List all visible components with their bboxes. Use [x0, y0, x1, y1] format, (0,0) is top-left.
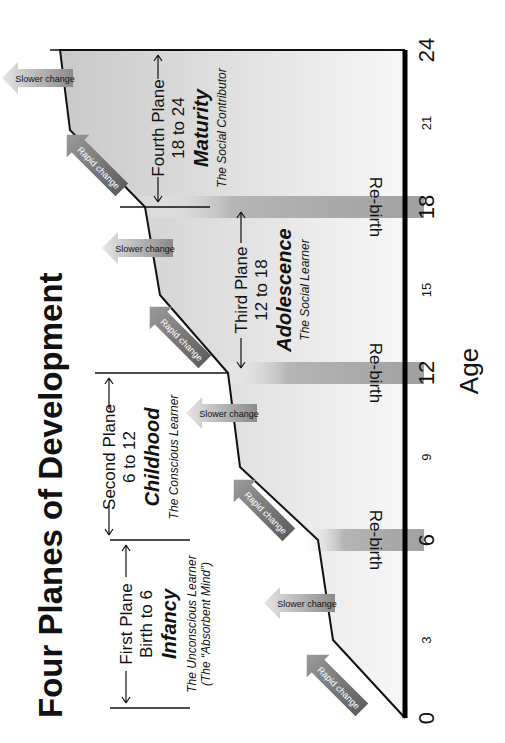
- plane-first: First Plane Birth to 6 Infancy The Uncon…: [117, 545, 213, 703]
- svg-text:Childhood: Childhood: [141, 407, 163, 507]
- tick-21: 21: [419, 116, 434, 130]
- svg-text:Rapid change: Rapid change: [315, 665, 361, 711]
- svg-text:Adolescence: Adolescence: [273, 228, 295, 352]
- svg-text:Slower change: Slower change: [115, 244, 175, 254]
- svg-text:First Plane: First Plane: [117, 583, 136, 664]
- svg-text:(The “Absorbent Mind”): (The “Absorbent Mind”): [199, 562, 213, 686]
- axis-label: Age: [454, 348, 484, 394]
- svg-text:Fourth Plane: Fourth Plane: [149, 79, 168, 176]
- plane-second: Second Plane 6 to 12 Childhood The Consc…: [100, 378, 181, 535]
- svg-text:18 to 24: 18 to 24: [169, 97, 188, 158]
- svg-text:Maturity: Maturity: [190, 88, 212, 167]
- svg-text:12 to 18: 12 to 18: [252, 259, 271, 320]
- tick-6: 6: [414, 534, 439, 546]
- tick-12: 12: [414, 361, 439, 385]
- tick-9: 9: [419, 453, 434, 460]
- four-planes-diagram: Re-birth Re-birth Re-birth 0 3 6 9 12 15…: [0, 0, 505, 743]
- tick-0: 0: [414, 712, 439, 724]
- svg-text:6 to 12: 6 to 12: [120, 431, 139, 483]
- page-title: Four Planes of Development: [32, 272, 69, 718]
- svg-text:Third Plane: Third Plane: [232, 247, 251, 334]
- svg-text:The Social Contributor: The Social Contributor: [215, 67, 229, 187]
- svg-text:Second Plane: Second Plane: [100, 404, 119, 510]
- svg-text:Birth to 6: Birth to 6: [137, 590, 156, 658]
- tick-18: 18: [414, 195, 439, 219]
- axis-ticks: 0 3 6 9 12 15 18 21 24: [414, 38, 439, 724]
- svg-text:Slower change: Slower change: [277, 599, 337, 609]
- svg-text:Re-birth: Re-birth: [366, 177, 385, 237]
- tick-15: 15: [419, 283, 434, 297]
- svg-text:Slower change: Slower change: [199, 409, 259, 419]
- svg-text:Re-birth: Re-birth: [366, 510, 385, 570]
- tick-24: 24: [414, 38, 439, 62]
- svg-text:Infancy: Infancy: [158, 588, 180, 659]
- tick-3: 3: [419, 636, 434, 643]
- svg-text:Re-birth: Re-birth: [366, 343, 385, 403]
- svg-text:The Conscious Learner: The Conscious Learner: [167, 394, 181, 520]
- svg-text:Slower change: Slower change: [15, 74, 75, 84]
- svg-text:The Social Learner: The Social Learner: [298, 238, 312, 340]
- svg-text:The Unconscious Learner: The Unconscious Learner: [185, 554, 199, 692]
